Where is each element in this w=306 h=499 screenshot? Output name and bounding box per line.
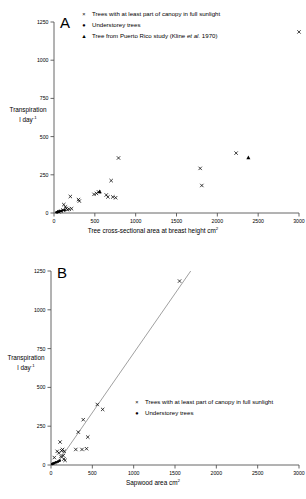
x-tick-label: 500 — [88, 470, 97, 476]
x-axis-title-b: Sapwood area cm2 — [0, 478, 306, 486]
y-axis-title-line2: l day — [19, 116, 33, 123]
x-tick-label: 3000 — [293, 218, 305, 224]
y-tick-label: 500 — [40, 134, 49, 140]
y-tick-label: 1000 — [37, 57, 49, 63]
data-point-marker-x — [74, 448, 77, 451]
legend-marker-dot-icon: ● — [80, 22, 88, 28]
scatter-plot-b: 0250500750100012500500100015002000250030… — [0, 250, 306, 499]
y-tick-label: 1250 — [34, 268, 46, 274]
data-point-marker-x — [178, 279, 181, 282]
data-point-marker-dot — [63, 209, 66, 212]
data-point-marker-x — [101, 408, 104, 411]
data-point-marker-x — [85, 447, 88, 450]
y-axis-title-b: Transpiration l day-1 — [0, 354, 52, 372]
data-point-marker-x — [62, 203, 65, 206]
chart-panel-b: B 02505007501000125005001000150020002500… — [0, 250, 306, 499]
y-tick-label: 1000 — [34, 307, 46, 313]
x-tick-label: 0 — [53, 218, 56, 224]
data-point-marker-x — [63, 459, 66, 462]
data-point-marker-triangle — [246, 156, 250, 160]
x-tick-label: 2500 — [252, 470, 264, 476]
data-point-marker-x — [69, 195, 72, 198]
x-tick-label: 3000 — [293, 470, 305, 476]
y-axis-title-sup: -1 — [33, 115, 37, 120]
legend-marker-x-icon: × — [133, 399, 141, 405]
legend-label-sunlight: Trees with at least part of canopy in fu… — [92, 10, 220, 17]
legend-label-understorey: Understorey trees — [92, 21, 140, 28]
x-axis-title-sup: 2 — [178, 478, 180, 483]
legend-label-puerto-rico: Tree from Puerto Rico study (Kline et al… — [92, 32, 217, 39]
data-point-marker-x — [53, 456, 56, 459]
data-point-marker-x — [114, 196, 117, 199]
legend-label-suffix: 1970) — [200, 32, 217, 39]
legend-marker-dot-icon: ● — [133, 410, 141, 416]
legend-label-understorey: Understorey trees — [145, 409, 193, 416]
x-axis-title-sup: 2 — [216, 226, 218, 231]
data-point-marker-x — [117, 156, 120, 159]
x-tick-label: 1500 — [169, 470, 181, 476]
x-tick-label: 0 — [50, 470, 53, 476]
data-point-marker-x — [80, 448, 83, 451]
y-tick-label: 750 — [40, 95, 49, 101]
data-point-marker-x — [111, 195, 114, 198]
data-point-marker-x — [109, 179, 112, 182]
y-tick-label: 0 — [46, 210, 49, 216]
x-axis-title-a: Tree cross-sectional area at breast heig… — [0, 226, 306, 234]
y-tick-label: 500 — [37, 384, 46, 390]
y-axis-title-a: Transpiration l day-1 — [2, 106, 54, 124]
x-tick-label: 2000 — [212, 218, 224, 224]
legend-marker-triangle-icon: ▲ — [80, 33, 88, 39]
x-tick-label: 500 — [91, 218, 100, 224]
y-tick-label: 250 — [37, 423, 46, 429]
data-point-marker-x — [297, 30, 300, 33]
data-point-marker-dot — [58, 459, 61, 462]
data-point-marker-x — [234, 151, 237, 154]
data-point-marker-x — [70, 207, 73, 210]
data-point-marker-dot — [60, 210, 63, 213]
data-point-marker-x — [198, 167, 201, 170]
y-axis-title-sup: -1 — [31, 363, 35, 368]
y-tick-label: 0 — [43, 462, 46, 468]
trend-line — [56, 271, 191, 465]
y-tick-label: 1250 — [37, 19, 49, 25]
data-point-marker-x — [200, 184, 203, 187]
y-tick-label: 250 — [40, 172, 49, 178]
legend-label-sunlight: Trees with at least part of canopy in fu… — [145, 398, 273, 405]
x-tick-label: 1500 — [171, 218, 183, 224]
x-tick-label: 1000 — [128, 470, 140, 476]
y-tick-label: 750 — [37, 346, 46, 352]
x-tick-label: 2000 — [211, 470, 223, 476]
y-axis-title-line1: Transpiration — [9, 106, 46, 113]
y-axis-title-line1: Transpiration — [7, 354, 44, 361]
x-tick-label: 1000 — [130, 218, 142, 224]
data-point-marker-x — [82, 418, 85, 421]
x-axis-title-main: Sapwood area — [126, 479, 167, 486]
x-axis-title-unit: cm — [205, 227, 215, 234]
y-axis-title-line2: l day — [17, 364, 31, 371]
x-axis-title-main: Tree cross-sectional area at breast heig… — [88, 227, 206, 234]
chart-panel-a: A 02505007501000125005001000150020002500… — [0, 0, 306, 249]
data-point-marker-x — [58, 440, 61, 443]
x-tick-label: 2500 — [252, 218, 264, 224]
x-axis-title-unit: cm — [167, 479, 177, 486]
legend-marker-x-icon: × — [80, 11, 88, 17]
legend-label-italic: et al. — [187, 32, 200, 39]
data-point-marker-x — [57, 451, 60, 454]
data-point-marker-x — [86, 435, 89, 438]
data-point-marker-x — [106, 195, 109, 198]
legend-label-prefix: Tree from Puerto Rico study (Kline — [92, 32, 187, 39]
